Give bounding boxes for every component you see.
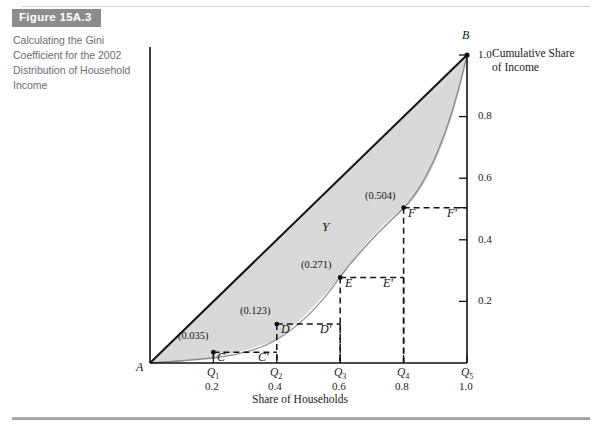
point-label-e-prime: E' (383, 276, 393, 291)
y-axis-title-line1: Cumulative Share (492, 47, 575, 59)
y-axis-title-line2: of Income (492, 61, 539, 73)
point-e-marker (338, 275, 343, 280)
point-label-f-prime: F' (447, 206, 457, 221)
x-axis-title: Share of Households (0, 393, 600, 405)
lorenz-curve-chart: B A Cumulative Share of Income Share of … (0, 0, 600, 433)
area-label-y: Y (322, 219, 329, 235)
point-label-a: A (136, 360, 143, 375)
point-label-d-prime: D' (320, 322, 331, 337)
point-label-b: B (462, 28, 469, 43)
y-tick-label-1.0: 1.0 (478, 48, 492, 60)
x-tick-label-q4: Q4 (397, 366, 409, 381)
y-tick-label-0.8: 0.8 (478, 109, 492, 121)
point-label-e: E (345, 276, 352, 291)
point-value-c: (0.035) (178, 330, 209, 341)
equality-line (150, 55, 467, 363)
point-c-marker (211, 350, 216, 355)
x-tick-label-q1: Q1Q1 (207, 366, 219, 381)
x-tick-label-q3: Q3 (334, 366, 346, 381)
point-f-marker (401, 205, 406, 210)
point-label-c: C (217, 350, 225, 365)
point-label-f: F (408, 206, 415, 221)
point-label-c-prime: C' (258, 350, 269, 365)
figure-page: Figure 15A.3 Calculating the Gini Coeffi… (0, 0, 600, 433)
point-d-marker (274, 322, 279, 327)
point-label-d: D (281, 322, 290, 337)
y-axis-title: Cumulative Share of Income (492, 46, 592, 74)
x-value-label-1.0: 1.0 (459, 380, 473, 392)
y-tick-label-0.2: 0.2 (478, 294, 492, 306)
point-value-e: (0.271) (301, 259, 332, 270)
point-b-marker (464, 52, 469, 57)
y-axis-ticks (459, 55, 467, 301)
x-tick-label-q2: Q2 (270, 366, 282, 381)
x-value-label-0.2: 0.2 (205, 380, 219, 392)
point-value-d: (0.123) (240, 305, 271, 316)
x-value-label-0.6: 0.6 (332, 380, 346, 392)
x-value-label-0.8: 0.8 (395, 380, 409, 392)
x-tick-label-q5: Q5 (461, 366, 473, 381)
point-value-f: (0.504) (365, 190, 396, 201)
y-tick-label-0.4: 0.4 (478, 233, 492, 245)
x-value-label-0.4: 0.4 (268, 380, 282, 392)
y-tick-label-0.6: 0.6 (478, 171, 492, 183)
